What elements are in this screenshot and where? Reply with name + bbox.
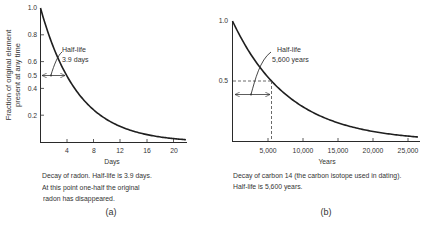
panel-a-y-tick: 0.8 xyxy=(28,30,37,39)
panel-b-annotation-line2: 5,600 years xyxy=(272,55,309,65)
panel-b-x-tick: 20,000 xyxy=(356,146,390,155)
panel-b-label: (b) xyxy=(321,207,332,217)
radon-curve-line xyxy=(40,8,150,85)
panel-b-x-axis-label: Years xyxy=(310,157,344,166)
radon-decay-curve xyxy=(40,8,170,85)
panel-a-caption-line3: radon has disappeared. xyxy=(43,193,115,204)
panel-a-x-tick: 20 xyxy=(157,146,191,155)
panel-a-caption-line1: Decay of radon. Half-life is 3.9 days. xyxy=(42,170,152,181)
panel-b-y-tick: 1.0 xyxy=(219,16,228,25)
panel-b-caption-line2: Half-life is 5,600 years. xyxy=(233,181,303,192)
panel-a-y-tick: 0.6 xyxy=(28,57,37,66)
panel-b-x-tick: 5,000 xyxy=(251,146,285,155)
panel-b-x-tick: 10,000 xyxy=(286,146,320,155)
panel-a-y-tick: 1.0 xyxy=(28,3,37,12)
figure: Fraction of original element present at … xyxy=(0,0,421,226)
panel-a-annotation-line1: Half-life xyxy=(62,45,86,55)
panel-a-y-axis-label: Fraction of original element present at … xyxy=(4,30,22,120)
panel-b-y-tick: 0.5 xyxy=(219,76,228,85)
panel-a-y-tick: 0.2 xyxy=(28,111,37,120)
panel-b-caption-line1: Decay of carbon 14 (the carbon isotope u… xyxy=(233,170,401,181)
panel-b-x-tick: 15,000 xyxy=(321,146,355,155)
panel-a-y-tick: 0.5 xyxy=(28,71,37,80)
panel-b-half-life-marker xyxy=(233,52,272,141)
panel-a-label: (a) xyxy=(106,207,117,217)
panel-b-annotation-line1: Half-life xyxy=(277,45,301,55)
panel-a-y-tick: 0.4 xyxy=(28,84,37,93)
panel-a-caption-line2: At this point one-half the original xyxy=(42,182,140,193)
panel-a-x-axis-label: Days xyxy=(95,157,129,166)
panel-a-annotation-line2: 3.9 days xyxy=(62,55,89,65)
panel-b-x-tick: 25,000 xyxy=(391,146,421,155)
